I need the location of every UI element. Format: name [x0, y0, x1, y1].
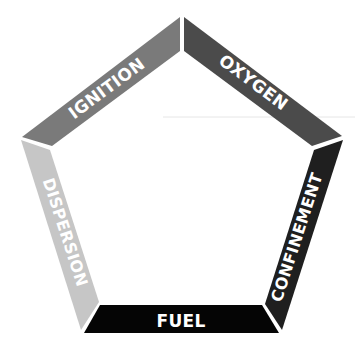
- segment-confinement-label: CONFINEMENT: [267, 170, 327, 304]
- segment-dispersion: DISPERSION: [21, 140, 99, 330]
- segment-confinement: CONFINEMENT: [265, 140, 343, 330]
- segment-oxygen: OXYGEN: [184, 17, 342, 146]
- segment-ignition-label: IGNITION: [64, 53, 148, 123]
- segment-fuel-label: FUEL: [156, 311, 205, 331]
- pentagon-diagram: IGNITION OXYGEN CONFINEMENT FUEL DISPERS…: [0, 0, 355, 346]
- segment-ignition: IGNITION: [22, 17, 180, 146]
- segment-fuel: FUEL: [84, 305, 279, 333]
